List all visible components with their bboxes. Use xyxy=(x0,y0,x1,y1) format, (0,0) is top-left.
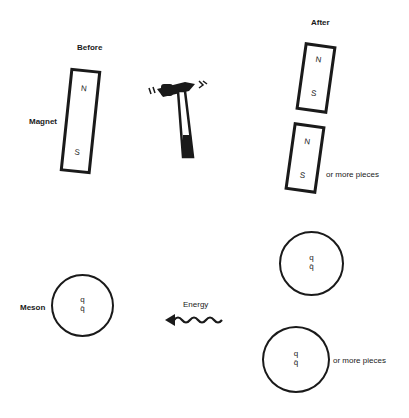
magnet-before: N S xyxy=(60,68,102,175)
magnet-after-2: N S xyxy=(284,122,325,194)
magnet-after-1: N S xyxy=(295,42,336,114)
after-label: After xyxy=(311,18,330,27)
meson-before: q q̄ xyxy=(51,274,114,337)
north-pole-label: N xyxy=(294,135,321,148)
south-pole-label: S xyxy=(64,147,90,159)
antiquark-label: q̄ xyxy=(264,359,328,367)
quark-label: q xyxy=(264,350,328,358)
wavy-arrow-icon xyxy=(163,311,229,329)
energy-label: Energy xyxy=(183,300,208,309)
or-more-pieces-label: or more pieces xyxy=(333,356,386,365)
north-pole-label: N xyxy=(71,83,97,95)
south-pole-label: S xyxy=(289,169,316,182)
meson-after-2: q q̄ xyxy=(262,326,330,393)
magnet-label: Magnet xyxy=(29,117,57,126)
meson-label: Meson xyxy=(20,303,45,312)
hammer-icon xyxy=(145,75,215,165)
north-pole-label: N xyxy=(305,53,332,66)
antiquark-label: q̄ xyxy=(281,263,342,271)
quark-label: q xyxy=(53,296,112,304)
before-label: Before xyxy=(77,43,102,52)
south-pole-label: S xyxy=(300,87,327,100)
antiquark-label: q̄ xyxy=(53,305,112,313)
meson-after-1: q q̄ xyxy=(279,231,344,296)
or-more-pieces-label: or more pieces xyxy=(326,170,379,179)
quark-label: q xyxy=(281,254,342,262)
